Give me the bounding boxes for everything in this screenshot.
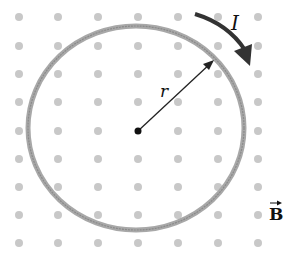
field-dot	[54, 239, 62, 247]
field-dot	[134, 211, 142, 219]
field-dot	[94, 155, 102, 163]
field-dot	[15, 70, 23, 78]
field-dot	[15, 127, 23, 135]
field-dot	[174, 155, 182, 163]
field-dot	[174, 211, 182, 219]
field-dot	[254, 239, 262, 247]
field-dot	[254, 183, 262, 191]
field-dot	[15, 42, 23, 50]
field-dot	[54, 155, 62, 163]
field-dot	[94, 239, 102, 247]
field-dot	[134, 13, 142, 21]
field-dot	[15, 98, 23, 106]
field-dot	[214, 127, 222, 135]
field-dot	[94, 70, 102, 78]
radius-label: r	[160, 81, 169, 101]
field-dot	[254, 155, 262, 163]
field-dot	[214, 13, 222, 21]
field-dot	[94, 211, 102, 219]
field-dot	[134, 70, 142, 78]
field-dot	[214, 70, 222, 78]
field-dot	[54, 127, 62, 135]
field-dot	[214, 155, 222, 163]
field-dot	[15, 211, 23, 219]
field-dot	[54, 70, 62, 78]
field-dot	[134, 98, 142, 106]
field-dot	[94, 183, 102, 191]
field-dot	[54, 183, 62, 191]
field-dot	[134, 155, 142, 163]
field-dot	[214, 239, 222, 247]
field-dot	[174, 183, 182, 191]
field-dot	[94, 13, 102, 21]
field-dot	[54, 211, 62, 219]
field-dot	[94, 98, 102, 106]
field-dot	[254, 98, 262, 106]
field-dot	[54, 42, 62, 50]
field-label: B	[269, 204, 283, 224]
field-dot	[254, 211, 262, 219]
field-dot	[254, 70, 262, 78]
field-dot	[214, 42, 222, 50]
field-dot	[174, 239, 182, 247]
field-dot	[254, 42, 262, 50]
diagram-svg: I r B	[0, 0, 304, 259]
field-dot	[94, 42, 102, 50]
loop-center-dot	[135, 128, 142, 135]
field-dot	[174, 13, 182, 21]
field-dot	[174, 70, 182, 78]
field-dot	[214, 98, 222, 106]
field-dot	[254, 127, 262, 135]
field-dot	[15, 155, 23, 163]
field-dot	[15, 183, 23, 191]
field-dot	[15, 239, 23, 247]
current-label: I	[230, 11, 240, 35]
field-dot	[174, 127, 182, 135]
field-dot	[134, 239, 142, 247]
field-dot	[254, 13, 262, 21]
field-dot	[174, 98, 182, 106]
field-dot	[94, 127, 102, 135]
field-dot	[174, 42, 182, 50]
field-dot	[54, 98, 62, 106]
field-dot	[214, 211, 222, 219]
field-dot	[134, 183, 142, 191]
diagram-canvas: I r B	[0, 0, 304, 259]
field-dot	[54, 13, 62, 21]
field-dot	[15, 13, 23, 21]
field-dot	[134, 42, 142, 50]
